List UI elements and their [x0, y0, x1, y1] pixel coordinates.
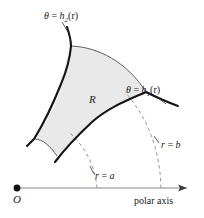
diagram-canvas	[0, 0, 204, 218]
label-polar-axis: polar axis	[134, 196, 173, 206]
dashed-arc-r-equals-b	[125, 92, 161, 188]
label-origin-O: O	[13, 194, 21, 205]
label-theta-h2-equals: =	[49, 10, 60, 21]
label-theta-h2-arg: (r)	[68, 10, 78, 21]
leader-line-r-b	[154, 136, 159, 143]
origin-point	[14, 185, 21, 192]
leader-line-r-a	[90, 166, 94, 174]
label-r-a-value: a	[110, 170, 115, 181]
polar-region-diagram: θ = h2(r) θ = h1(r) r = a r = b R O pola…	[0, 0, 204, 218]
label-r-a-equals: =	[99, 170, 110, 181]
label-region-R: R	[89, 94, 96, 105]
label-r-b-value: b	[176, 139, 181, 150]
label-r-equals-b: r = b	[161, 140, 181, 150]
label-theta-h1-arg: (r)	[150, 84, 160, 95]
label-theta-h1-equals: =	[131, 84, 142, 95]
label-theta-equals-h2: θ = h2(r)	[44, 11, 78, 24]
label-r-b-equals: =	[165, 139, 176, 150]
label-r-equals-a: r = a	[95, 171, 115, 181]
label-theta-equals-h1: θ = h1(r)	[126, 85, 160, 98]
